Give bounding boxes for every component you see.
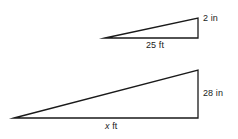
large-triangle-shape bbox=[14, 70, 198, 118]
large-triangle-base-unit: ft bbox=[112, 121, 117, 131]
similar-triangles-figure: 2 in 25 ft 28 in x ft bbox=[0, 0, 238, 139]
small-triangle-base-label: 25 ft bbox=[146, 41, 164, 50]
large-triangle-base-variable: x bbox=[105, 121, 110, 131]
small-triangle-height-label: 2 in bbox=[203, 14, 218, 23]
large-triangle-height-label: 28 in bbox=[203, 89, 223, 98]
large-triangle-base-label: x ft bbox=[105, 122, 117, 131]
small-triangle-shape bbox=[105, 18, 198, 38]
